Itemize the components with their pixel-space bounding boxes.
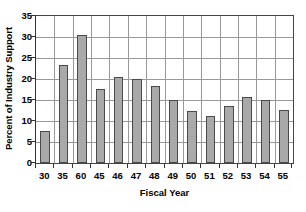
bar — [187, 111, 197, 163]
x-axis-tick-label: 52 — [223, 170, 234, 181]
x-axis-tick-mark — [164, 164, 165, 168]
x-axis-tick-mark — [274, 164, 275, 168]
bars-container — [36, 16, 293, 163]
bar — [132, 79, 142, 163]
x-axis-tick-marks — [35, 164, 294, 168]
x-axis-tick-label: 47 — [131, 170, 142, 181]
bar — [77, 35, 87, 163]
bar — [261, 100, 271, 163]
x-axis-tick-mark — [200, 164, 201, 168]
x-axis-title: Fiscal Year — [35, 187, 294, 198]
x-axis-tick-labels: 3035604546474849505152535455 — [35, 170, 294, 184]
x-axis-tick-label: 46 — [112, 170, 123, 181]
x-axis-tick-label: 48 — [149, 170, 160, 181]
bar — [169, 100, 179, 163]
x-axis-tick-mark — [108, 164, 109, 168]
y-axis-title-label: Percent of Industry Support — [3, 27, 14, 150]
x-axis-tick-label: 60 — [76, 170, 87, 181]
x-axis-tick-mark — [237, 164, 238, 168]
x-axis-tick-label: 49 — [167, 170, 178, 181]
bar — [114, 77, 124, 164]
x-axis-tick-mark — [90, 164, 91, 168]
x-axis-tick-label: 51 — [204, 170, 215, 181]
bar — [224, 106, 234, 163]
y-axis-title: Percent of Industry Support — [0, 0, 16, 176]
x-axis-tick-label: 50 — [186, 170, 197, 181]
bar — [206, 116, 216, 164]
x-axis-tick-label: 30 — [39, 170, 50, 181]
x-axis-tick-mark — [145, 164, 146, 168]
bar — [242, 97, 252, 163]
x-axis-tick-label: 45 — [94, 170, 105, 181]
x-axis-tick-mark — [219, 164, 220, 168]
x-axis-tick-mark — [182, 164, 183, 168]
x-axis-tick-mark — [35, 164, 36, 168]
bar — [59, 65, 69, 163]
x-axis-tick-mark — [72, 164, 73, 168]
bar — [40, 131, 50, 163]
x-axis-tick-mark — [127, 164, 128, 168]
x-axis-tick-mark — [255, 164, 256, 168]
bar — [96, 89, 106, 163]
bar — [279, 110, 289, 163]
x-axis-tick-label: 35 — [57, 170, 68, 181]
x-axis-tick-label: 54 — [259, 170, 270, 181]
bar-chart: Percent of Industry Support 051015202530… — [0, 0, 306, 212]
bar — [151, 86, 161, 163]
x-axis-tick-label: 53 — [241, 170, 252, 181]
x-axis-tick-label: 55 — [278, 170, 289, 181]
x-axis-tick-mark — [291, 164, 292, 168]
x-axis-tick-mark — [53, 164, 54, 168]
plot-area — [35, 15, 294, 164]
